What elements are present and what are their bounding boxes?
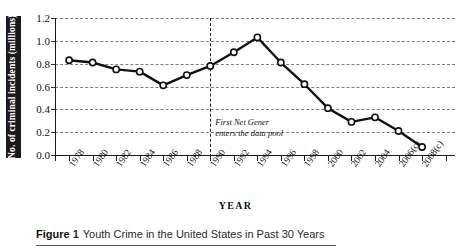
data-point-marker xyxy=(231,49,237,55)
figure-caption-label: Figure xyxy=(36,228,70,240)
x-axis-title: YEAR xyxy=(0,200,471,211)
data-point-marker xyxy=(66,57,72,63)
data-point-marker xyxy=(137,69,143,75)
data-point-marker xyxy=(160,82,166,88)
figure-caption-text: Youth Crime in the United States in Past… xyxy=(83,228,325,240)
figure-container: No. of criminal incidents (millions) 0.0… xyxy=(0,0,471,251)
caption-rule xyxy=(36,245,336,246)
data-series-svg xyxy=(0,0,471,251)
series-line xyxy=(69,37,422,147)
data-point-marker xyxy=(184,72,190,78)
data-point-marker xyxy=(301,81,307,87)
data-point-marker xyxy=(90,59,96,65)
data-point-marker xyxy=(254,34,260,40)
data-point-marker xyxy=(348,119,354,125)
data-point-marker xyxy=(372,114,378,120)
data-point-marker xyxy=(113,66,119,72)
data-point-marker xyxy=(395,128,401,134)
data-point-marker xyxy=(325,105,331,111)
figure-caption-number: 1 xyxy=(73,228,79,240)
data-point-marker xyxy=(419,144,425,150)
figure-caption: Figure1Youth Crime in the United States … xyxy=(36,228,325,240)
data-point-marker xyxy=(278,59,284,65)
data-point-marker xyxy=(207,63,213,69)
